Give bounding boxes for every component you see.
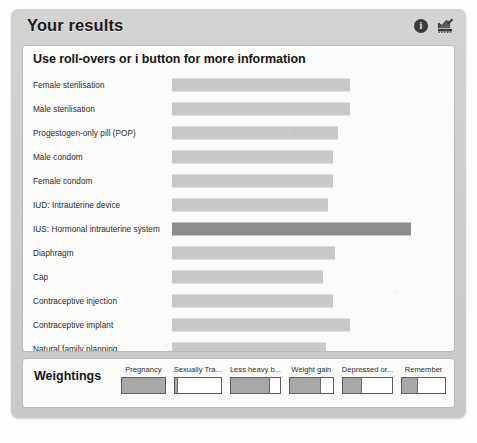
result-bar-row[interactable]: Natural family planning	[23, 337, 454, 352]
chart-edit-icon[interactable]	[437, 18, 454, 33]
weighting-slider-label: Weight gain	[291, 365, 331, 374]
result-bar-track	[172, 247, 416, 260]
result-bar-label: Male condom	[33, 153, 83, 162]
result-bar-row[interactable]: Contraceptive injection	[23, 289, 454, 313]
results-application-panel: Your results i Use roll-overs or i butto…	[11, 9, 466, 418]
result-bar-label: Contraceptive injection	[33, 297, 117, 306]
result-bar-row[interactable]: Cap	[23, 265, 454, 289]
weighting-slider[interactable]	[289, 377, 334, 394]
weighting-slider-unit: Remember	[401, 365, 446, 394]
result-bar-label: Female sterilisation	[33, 81, 105, 90]
result-bar-label: IUD: Intrauterine device	[33, 201, 120, 210]
result-bar-row[interactable]: Male sterilisation	[23, 97, 454, 121]
result-bar-fill-highlighted	[172, 223, 411, 236]
weighting-slider[interactable]	[230, 377, 281, 394]
result-bar-fill	[172, 103, 350, 116]
result-bar-track	[172, 199, 416, 212]
weighting-slider[interactable]	[342, 377, 394, 394]
weighting-slider[interactable]	[401, 377, 446, 394]
result-bar-row[interactable]: Contraceptive implant	[23, 313, 454, 337]
result-bar-row[interactable]: Progestogen-only pill (POP)	[23, 121, 454, 145]
weightings-title: Weightings	[34, 369, 101, 383]
weighting-slider-fill	[122, 378, 165, 393]
result-bar-label: Cap	[33, 273, 48, 282]
page-title: Your results	[27, 16, 123, 35]
result-bar-row[interactable]: Male condom	[23, 145, 454, 169]
result-bar-track	[172, 343, 416, 353]
result-bar-label: Female condom	[33, 177, 92, 186]
result-bar-track	[172, 295, 416, 308]
weighting-slider[interactable]	[121, 377, 166, 394]
weighting-slider-fill	[175, 378, 179, 393]
results-bar-list: Female sterilisationMale sterilisationPr…	[23, 73, 454, 352]
weighting-slider-unit: Depressed or...	[342, 365, 394, 394]
weighting-slider-label: Depressed or...	[342, 365, 394, 374]
header-icon-group: i	[414, 18, 454, 33]
panel-header: Your results i	[11, 9, 466, 42]
result-bar-label: Male sterilisation	[33, 105, 95, 114]
weighting-slider-label: Less heavy b...	[230, 365, 281, 374]
weighting-slider-fill	[343, 378, 362, 393]
weighting-slider-label: Sexually Tra...	[174, 365, 222, 374]
weighting-slider-fill	[402, 378, 418, 393]
result-bar-fill	[172, 151, 333, 164]
weighting-slider-fill	[231, 378, 270, 393]
result-bar-track	[172, 223, 416, 236]
result-bar-track	[172, 319, 416, 332]
result-bar-track	[172, 79, 416, 92]
weighting-slider-unit: Weight gain	[289, 365, 334, 394]
result-bar-fill	[172, 343, 326, 353]
result-bar-fill	[172, 79, 350, 92]
result-bar-fill	[172, 295, 333, 308]
weighting-slider-unit: Sexually Tra...	[174, 365, 222, 394]
result-bar-label: Contraceptive implant	[33, 321, 113, 330]
result-bar-label: Progestogen-only pill (POP)	[33, 129, 136, 138]
result-bar-track	[172, 103, 416, 116]
weightings-slider-group: PregnancySexually Tra...Less heavy b...W…	[121, 365, 446, 394]
weightings-card: Weightings PregnancySexually Tra...Less …	[22, 358, 455, 408]
results-subtitle: Use roll-overs or i button for more info…	[23, 46, 454, 66]
weighting-slider-fill	[290, 378, 321, 393]
result-bar-track	[172, 271, 416, 284]
result-bar-track	[172, 127, 416, 140]
result-bar-row[interactable]: IUS: Hormonal intrauterine system	[23, 217, 454, 241]
result-bar-row[interactable]: Diaphragm	[23, 241, 454, 265]
results-card: Use roll-overs or i button for more info…	[22, 45, 455, 352]
result-bar-track	[172, 175, 416, 188]
result-bar-fill	[172, 199, 328, 212]
result-bar-fill	[172, 247, 335, 260]
info-icon[interactable]: i	[414, 19, 428, 33]
weighting-slider-label: Pregnancy	[125, 365, 161, 374]
weighting-slider-label: Remember	[405, 365, 443, 374]
result-bar-fill	[172, 271, 323, 284]
result-bar-row[interactable]: Female sterilisation	[23, 73, 454, 97]
result-bar-fill	[172, 319, 350, 332]
result-bar-label: Diaphragm	[33, 249, 74, 258]
result-bar-label: IUS: Hormonal intrauterine system	[33, 225, 160, 234]
weighting-slider-unit: Less heavy b...	[230, 365, 281, 394]
result-bar-fill	[172, 175, 333, 188]
result-bar-fill	[172, 127, 338, 140]
result-bar-track	[172, 151, 416, 164]
result-bar-row[interactable]: Female condom	[23, 169, 454, 193]
weighting-slider-unit: Pregnancy	[121, 365, 166, 394]
weighting-slider[interactable]	[174, 377, 222, 394]
result-bar-row[interactable]: IUD: Intrauterine device	[23, 193, 454, 217]
result-bar-label: Natural family planning	[33, 345, 117, 353]
